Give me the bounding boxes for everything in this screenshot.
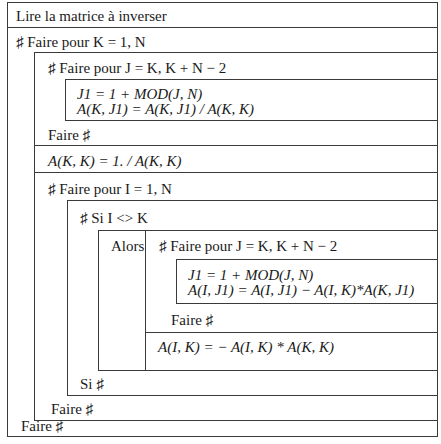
diag-assign-step: A(K, K) = 1. / A(K, K) (48, 153, 182, 169)
outer-right-border (437, 2, 438, 437)
loop-j1-body-top (65, 79, 437, 80)
loop-j2-end-separator (145, 332, 437, 333)
outer-top-border (7, 2, 437, 3)
loop-i-body-top (67, 200, 437, 201)
if-body-top (98, 230, 437, 231)
then-label: Alors (111, 238, 144, 254)
loop-j2-body-top (176, 259, 437, 260)
loop-j2-header: ♯ Faire pour J = K, K + N − 2 (159, 238, 337, 254)
loop-j1-body-line2: A(K, J1) = A(K, J1) / A(K, K) (77, 101, 254, 117)
loop-i-body-bottom (67, 395, 437, 396)
loop-j1-body-left (65, 79, 66, 121)
loop-k-header: ♯ Faire pour K = 1, N (16, 34, 146, 50)
loop-i-footer: Faire ♯ (51, 401, 93, 417)
if-footer: Si ♯ (80, 376, 104, 392)
loop-k-body-bottom (34, 420, 437, 421)
if-header: ♯ Si I <> K (80, 210, 148, 226)
diag-assign-separator (34, 172, 437, 173)
loop-j2-body-line1: J1 = 1 + MOD(J, N) (188, 267, 313, 283)
loop-j1-footer: Faire ♯ (48, 127, 90, 143)
loop-j2-body-line2: A(I, J1) = A(I, J1) − A(I, K)*A(K, J1) (188, 282, 414, 298)
loop-k-footer: Faire ♯ (21, 418, 63, 434)
loop-k-body-top (34, 52, 437, 53)
then-column-divider (145, 230, 146, 371)
col-assign-step: A(I, K) = − A(I, K) * A(K, K) (158, 339, 334, 355)
loop-j1-body-bottom (65, 120, 437, 121)
outer-left-border (7, 2, 8, 437)
loop-i-body-left (67, 200, 68, 396)
loop-i-header: ♯ Faire pour I = 1, N (48, 181, 172, 197)
if-body-left (98, 230, 99, 371)
outer-bottom-border (7, 436, 438, 437)
loop-j1-end-separator (34, 145, 437, 146)
loop-j2-body-left (176, 259, 177, 304)
loop-j2-footer: Faire ♯ (171, 312, 213, 328)
if-body-bottom (98, 370, 437, 371)
read-matrix-step: Lire la matrice à inverser (16, 8, 167, 24)
read-separator (7, 27, 437, 28)
loop-j1-body-line1: J1 = 1 + MOD(J, N) (77, 86, 202, 102)
loop-j1-header: ♯ Faire pour J = K, K + N − 2 (48, 60, 226, 76)
loop-k-body-left (34, 52, 35, 421)
loop-j2-body-bottom (176, 303, 437, 304)
